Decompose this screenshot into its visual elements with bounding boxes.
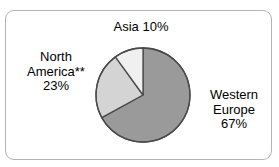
pie-label-western-europe-value: 67% [192, 117, 276, 132]
pie-label-north-america-line1: North [12, 50, 100, 65]
pie-label-north-america-value: 23% [12, 79, 100, 94]
pie-label-north-america-line2: America** [12, 65, 100, 80]
pie-chart-figure: Asia 10% North America** 23% Western Eur… [0, 0, 279, 167]
pie-label-asia-text: Asia 10% [114, 19, 169, 34]
pie-label-north-america: North America** 23% [12, 50, 100, 94]
pie-label-western-europe: Western Europe 67% [192, 88, 276, 132]
pie-label-western-europe-line2: Europe [192, 103, 276, 118]
pie-label-western-europe-line1: Western [192, 88, 276, 103]
pie-label-asia: Asia 10% [92, 20, 190, 35]
